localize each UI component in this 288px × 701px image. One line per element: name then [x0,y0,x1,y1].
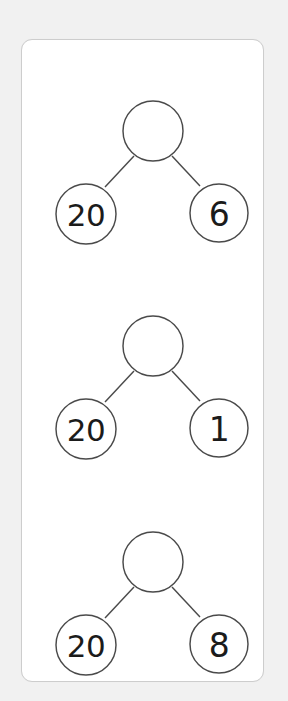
number-bond-tree-1: 20 6 [22,72,265,257]
connector-line-right [172,587,200,617]
right-child-node-value: 8 [209,626,230,665]
connector-line-left [105,156,134,187]
connector-line-left [105,587,134,618]
left-child-node-value: 20 [67,412,105,448]
left-child-node-value: 20 [67,197,105,233]
connector-line-right [172,371,200,401]
left-child-node-value: 20 [67,628,105,664]
root-node-circle[interactable] [123,316,183,376]
root-node-circle[interactable] [123,532,183,592]
number-bond-tree-3: 20 8 [22,503,265,688]
right-child-node-value: 1 [209,410,230,449]
connector-line-left [105,371,134,402]
right-child-node-value: 6 [209,195,230,234]
worksheet-card: 20 6 20 1 20 8 [21,39,264,682]
root-node-circle[interactable] [123,101,183,161]
number-bond-tree-2: 20 1 [22,287,265,472]
connector-line-right [172,156,200,186]
